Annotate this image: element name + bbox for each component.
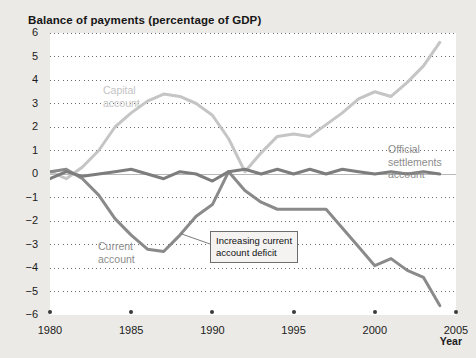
y-tick-label: −6 (8, 308, 38, 320)
y-tick-label: 0 (8, 167, 38, 179)
y-tick-label: 6 (8, 26, 38, 38)
y-tick-label: −4 (8, 261, 38, 273)
x-tick-dot (48, 310, 52, 314)
annotation-line2: account deficit (216, 247, 292, 259)
y-tick-label: 4 (8, 73, 38, 85)
y-tick-label: 2 (8, 120, 38, 132)
x-tick-dot (292, 310, 296, 314)
annotation-leader-line (182, 234, 210, 244)
plot-svg (50, 33, 456, 315)
y-tick-label: −5 (8, 285, 38, 297)
x-tick-label: 1985 (108, 324, 154, 336)
x-axis-title: Year (440, 335, 462, 347)
x-tick-dot (373, 310, 377, 314)
y-tick-label: 1 (8, 144, 38, 156)
chart-figure: Balance of payments (percentage of GDP) … (0, 0, 476, 358)
chart-title: Balance of payments (percentage of GDP) (28, 14, 261, 26)
y-tick-label: −1 (8, 191, 38, 203)
annotation-line1: Increasing current (216, 235, 292, 247)
plot-area (50, 33, 456, 315)
y-tick-label: −3 (8, 238, 38, 250)
x-tick-label: 1980 (27, 324, 73, 336)
x-tick-dot (454, 310, 458, 314)
y-tick-label: 3 (8, 97, 38, 109)
x-tick-label: 1990 (189, 324, 235, 336)
series-line-capital-account (50, 42, 440, 178)
y-tick-label: 5 (8, 50, 38, 62)
y-tick-label: −2 (8, 214, 38, 226)
x-tick-label: 1995 (271, 324, 317, 336)
annotation-increasing-current-account-deficit: Increasing current account deficit (210, 231, 298, 263)
x-tick-label: 2000 (352, 324, 398, 336)
